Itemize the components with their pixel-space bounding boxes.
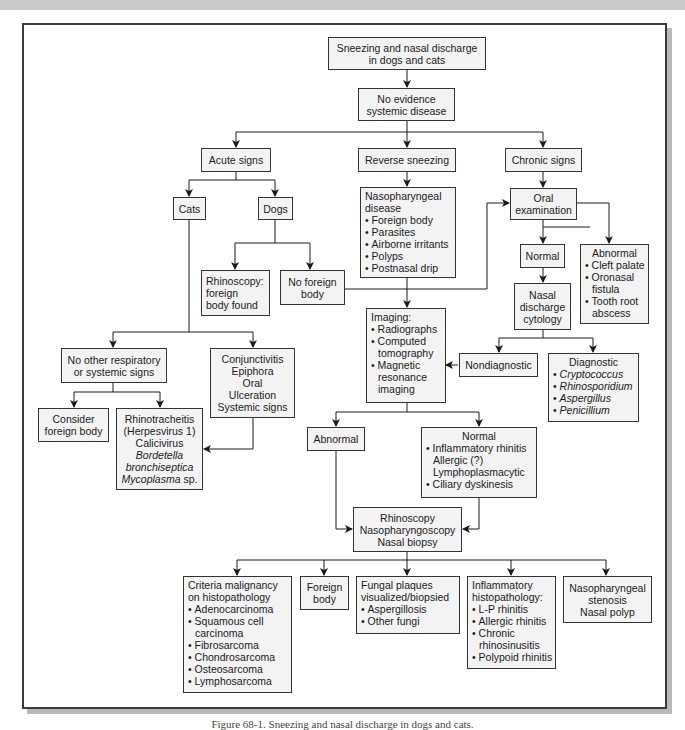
node-no-systemic-disease: No evidence systemic disease (358, 88, 455, 121)
node-nasal-discharge-cytology: Nasal discharge cytology (514, 283, 571, 330)
node-inflammatory-histopathology: Inflammatory histopathology: L-P rhiniti… (467, 576, 556, 669)
node-conjunctivitis: Conjunctivitis Epiphora Oral Ulceration … (210, 348, 295, 418)
node-rhinotracheitis: Rhinotracheitis (Herpesvirus 1) Calicivi… (116, 408, 203, 490)
node-oral-abnormal: Abnormal Cleft palate Oronasal fistula T… (580, 244, 649, 324)
node-start: Sneezing and nasal discharge in dogs and… (328, 37, 486, 70)
node-rhinoscopy-foreign-body-found: Rhinoscopy: foreign body found (201, 270, 270, 316)
node-oral-examination: Oral examination (510, 188, 577, 220)
node-imaging: Imaging: Radiographs Computed tomography… (366, 308, 446, 403)
node-criteria-malignancy: Criteria malignancy on histopathology Ad… (183, 576, 292, 693)
node-foreign-body: Foreign body (300, 576, 349, 610)
node-reverse-sneezing: Reverse sneezing (358, 148, 456, 172)
node-oral-normal: Normal (520, 244, 565, 268)
node-nondiagnostic: Nondiagnostic (459, 353, 538, 377)
node-imaging-abnormal: Abnormal (307, 427, 365, 451)
node-cats: Cats (173, 197, 206, 220)
node-consider-foreign-body: Consider foreign body (38, 408, 109, 442)
node-imaging-normal: Normal Inflammatory rhinitis Allergic (?… (421, 427, 537, 498)
node-nasopharyngeal-disease: Nasopharyngeal disease Foreign body Para… (360, 187, 456, 278)
node-dogs: Dogs (258, 197, 293, 220)
node-chronic-signs: Chronic signs (505, 148, 582, 172)
node-no-other-respiratory-signs: No other respiratory or systemic signs (61, 348, 167, 383)
node-rhinoscopy-biopsy: Rhinoscopy Nasopharyngoscopy Nasal biops… (353, 507, 462, 552)
top-gray-bar (0, 0, 685, 10)
node-acute-signs: Acute signs (201, 148, 271, 172)
node-nasopharyngeal-stenosis: Nasopharyngeal stenosis Nasal polyp (563, 576, 652, 623)
node-diagnostic: Diagnostic Cryptococcus Rhinosporidium A… (548, 353, 639, 422)
figure-caption: Figure 68-1. Sneezing and nasal discharg… (0, 718, 685, 730)
node-no-foreign-body: No foreign body (280, 270, 345, 305)
node-fungal-plaques: Fungal plaques visualized/biopsied Asper… (356, 576, 460, 634)
